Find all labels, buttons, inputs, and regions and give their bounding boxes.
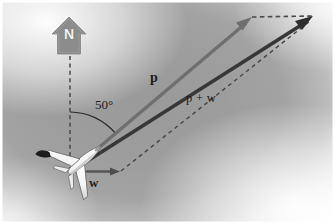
- angle-label: 50°: [95, 98, 113, 111]
- vector-w-label: w: [89, 176, 98, 189]
- vector-p-label: p: [150, 71, 158, 85]
- diagram-canvas: [0, 0, 335, 224]
- north-letter-label: N: [61, 27, 77, 41]
- vector-diagram-figure: p p + w w 50° N: [0, 0, 335, 224]
- vector-sum-label: p + w: [186, 92, 216, 105]
